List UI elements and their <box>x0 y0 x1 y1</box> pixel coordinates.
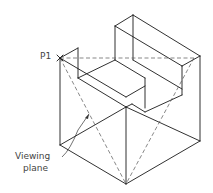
viewing-plane-leader <box>62 114 89 157</box>
viewing-plane-label-line2: plane <box>23 163 48 173</box>
point-p1-label: P1 <box>40 51 51 61</box>
left-block <box>60 48 182 112</box>
isometric-drawing: P1 Viewing plane <box>0 0 213 193</box>
base-box <box>60 56 200 184</box>
diagram-canvas: P1 Viewing plane <box>0 0 213 193</box>
viewing-plane-label-line1: Viewing <box>15 151 50 161</box>
back-wall <box>115 15 200 95</box>
